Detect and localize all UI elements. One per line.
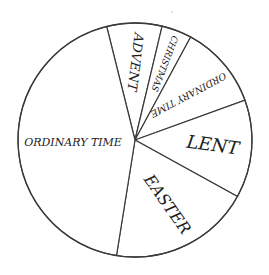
scan-speck [171,11,173,13]
slice-label-ordinary-time: ORDINARY TIME [24,136,122,149]
pie-chart: ADVENTCHRISTMASORDINARY TIMELENTEASTEROR… [0,0,269,275]
